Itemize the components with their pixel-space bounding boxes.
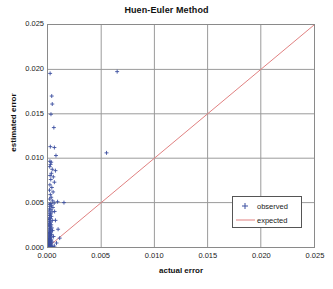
x-tick-label: 0.015 [186,252,230,260]
y-tick-label: 0.020 [0,65,44,73]
x-tick-label: 0.020 [239,252,283,260]
y-axis-tick-labels: 0.0000.0050.0100.0150.0200.025 [0,24,44,248]
legend-label-expected: expected [257,216,287,225]
y-tick-label: 0.025 [0,20,44,28]
line-swatch-icon [233,213,257,227]
x-tick-label: 0.025 [293,252,333,260]
plus-marker-icon [233,199,257,213]
y-tick-label: 0.010 [0,154,44,162]
x-axis-label: actual error [47,266,315,275]
legend-item-expected: expected [233,213,303,227]
y-tick-label: 0.015 [0,110,44,118]
x-tick-label: 0.005 [79,252,123,260]
x-tick-label: 0.010 [132,252,176,260]
chart-container: Huen-Euler Method estimated error 0.0000… [0,0,333,289]
y-tick-label: 0.005 [0,199,44,207]
x-axis-tick-labels: 0.0000.0050.0100.0150.0200.025 [47,252,315,264]
legend-label-observed: observed [257,202,288,211]
legend-item-observed: observed [233,199,303,213]
chart-title: Huen-Euler Method [0,5,333,15]
x-tick-label: 0.000 [25,252,69,260]
chart-legend: observed expected [232,196,302,228]
